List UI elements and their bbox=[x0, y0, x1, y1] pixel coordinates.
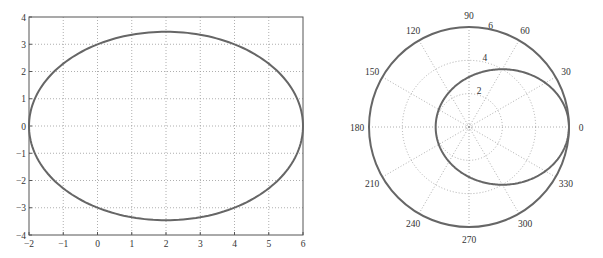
polar-angle-label: 0 bbox=[579, 123, 584, 133]
x-tick-label: 2 bbox=[164, 239, 169, 249]
x-tick-label: −2 bbox=[24, 239, 34, 249]
x-tick-label: 3 bbox=[198, 239, 203, 249]
polar-radius-label: 2 bbox=[477, 86, 482, 96]
y-tick-label: −4 bbox=[16, 231, 26, 241]
polar-angle-label: 210 bbox=[365, 179, 380, 189]
polar-angle-label: 120 bbox=[406, 26, 421, 36]
polar-angle-spoke bbox=[469, 127, 519, 214]
polar-angle-spoke bbox=[469, 40, 519, 127]
polar-angle-spoke bbox=[419, 40, 469, 127]
y-tick-label: −1 bbox=[16, 149, 26, 159]
polar-angle-label: 330 bbox=[559, 179, 574, 189]
polar-angle-label: 180 bbox=[350, 123, 365, 133]
polar-angle-label: 60 bbox=[520, 26, 530, 36]
polar-angle-label: 150 bbox=[365, 67, 380, 77]
y-tick-label: 2 bbox=[21, 67, 26, 77]
x-tick-label: 0 bbox=[95, 239, 100, 249]
x-tick-label: −1 bbox=[58, 239, 68, 249]
y-tick-label: −2 bbox=[16, 176, 26, 186]
polar-gridlines bbox=[369, 27, 569, 227]
x-tick-label: 1 bbox=[129, 239, 134, 249]
x-tick-label: 6 bbox=[301, 239, 306, 249]
polar-angle-spoke bbox=[469, 127, 556, 177]
cartesian-plot-frame bbox=[29, 17, 303, 235]
y-tick-label: −3 bbox=[16, 203, 26, 213]
polar-angle-label: 300 bbox=[518, 219, 533, 229]
y-tick-label: 0 bbox=[21, 122, 26, 132]
polar-angle-label: 30 bbox=[561, 67, 571, 77]
chart-canvas: −2−10123456−4−3−2−101234 246030609012015… bbox=[0, 0, 603, 258]
cartesian-gridlines bbox=[29, 17, 303, 235]
polar-tick-labels: 2460306090120150180210240270300330 bbox=[350, 11, 584, 245]
y-tick-label: 1 bbox=[21, 94, 26, 104]
x-tick-label: 5 bbox=[266, 239, 271, 249]
x-tick-label: 4 bbox=[232, 239, 237, 249]
polar-angle-label: 240 bbox=[406, 219, 421, 229]
polar-angle-spoke bbox=[419, 127, 469, 214]
polar-angle-label: 270 bbox=[462, 235, 477, 245]
y-tick-label: 4 bbox=[21, 13, 26, 23]
polar-radius-label: 4 bbox=[483, 53, 488, 63]
polar-angle-spoke bbox=[469, 77, 556, 127]
polar-angle-label: 90 bbox=[464, 11, 474, 21]
y-tick-label: 3 bbox=[21, 40, 26, 50]
cartesian-tick-labels: −2−10123456−4−3−2−101234 bbox=[16, 13, 306, 250]
